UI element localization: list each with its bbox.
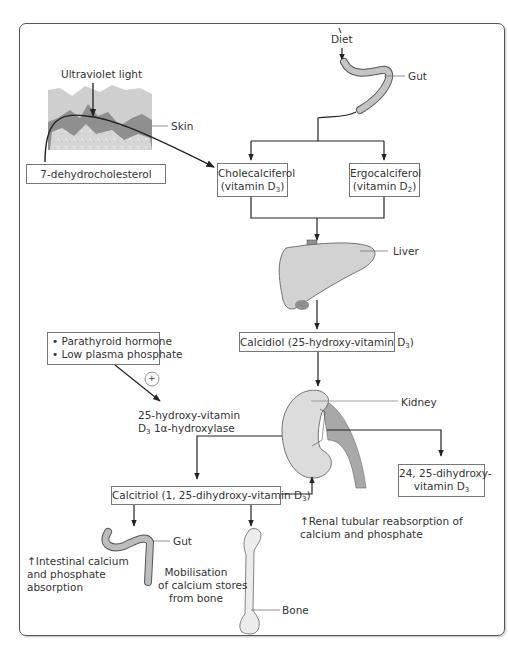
enzyme-label: 25-hydroxy-vitamin D3 1α-hydroxylase bbox=[138, 409, 234, 435]
intestinal-effect-label: ↑Intestinal calcium and phosphate absorp… bbox=[27, 555, 129, 594]
bone-effect-label: Mobilisation of calcium stores from bone bbox=[158, 566, 234, 605]
ergocalciferol-sub: (vitamin D2) bbox=[350, 180, 419, 193]
cholecalciferol-box: Cholecalciferol (vitamin D3) bbox=[217, 163, 288, 197]
regulators-box: • Parathyroid hormone • Low plasma phosp… bbox=[47, 332, 160, 365]
uv-light-label: Ultraviolet light bbox=[61, 68, 142, 81]
renal-effect-label: ↑Renal tubular reabsorption of calcium a… bbox=[300, 515, 463, 541]
liver-label: Liver bbox=[393, 245, 419, 258]
skin-label: Skin bbox=[171, 120, 193, 133]
stimulation-sign: + bbox=[148, 372, 156, 385]
diet-label: Diet bbox=[331, 33, 353, 46]
calcitriol-box: Calcitriol (1, 25-dihydroxy-vitamin D3) bbox=[111, 486, 281, 505]
inactive-metabolite-box: 24, 25-dihydroxy- vitamin D3 bbox=[398, 464, 485, 497]
gut-bottom-label: Gut bbox=[173, 535, 192, 548]
cholecalciferol-name: Cholecalciferol bbox=[218, 167, 287, 180]
ergocalciferol-name: Ergocalciferol bbox=[350, 167, 419, 180]
liver-illustration bbox=[279, 240, 388, 310]
cholecalciferol-sub: (vitamin D3) bbox=[218, 180, 287, 193]
7-dehydrocholesterol-text: 7-dehydrocholesterol bbox=[40, 168, 151, 180]
calcidiol-box: Calcidiol (25-hydroxy-vitamin D3) bbox=[239, 332, 395, 352]
calcitriol-text: Calcitriol (1, 25-dihydroxy-vitamin D bbox=[112, 489, 302, 501]
ergocalciferol-box: Ergocalciferol (vitamin D2) bbox=[349, 163, 420, 197]
gut-top-label: Gut bbox=[408, 70, 427, 83]
regulator-pth: • Parathyroid hormone bbox=[52, 335, 155, 348]
calcidiol-text: Calcidiol (25-hydroxy-vitamin D bbox=[240, 336, 405, 348]
kidney-illustration bbox=[282, 390, 398, 488]
regulator-phosphate: • Low plasma phosphate bbox=[52, 348, 155, 361]
bone-label: Bone bbox=[282, 604, 309, 617]
skin-illustration bbox=[48, 85, 168, 150]
kidney-label: Kidney bbox=[401, 396, 437, 409]
7-dehydrocholesterol-box: 7-dehydrocholesterol bbox=[26, 164, 166, 184]
